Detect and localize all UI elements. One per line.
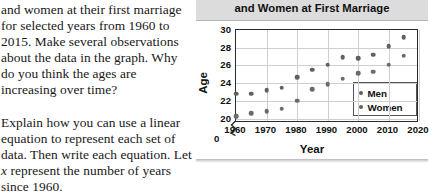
legend-marker-women-icon	[359, 105, 363, 109]
chart-title: and Women at First Marriage	[196, 2, 428, 14]
data-point-women	[371, 69, 376, 74]
data-point-men	[371, 53, 376, 58]
data-point-men	[386, 44, 391, 49]
plot-area: Age Year 202224262830 0 Men Women	[196, 21, 428, 162]
x-axis-label: Year	[196, 143, 428, 155]
data-point-men	[264, 88, 269, 93]
paragraph-2-text-after: represent the number of years since 1960…	[1, 163, 171, 194]
data-point-men	[401, 35, 406, 40]
data-point-men	[325, 62, 330, 67]
y-tick-30: 30	[220, 24, 231, 35]
gridline-vertical	[419, 30, 420, 121]
x-tick-2010: 2010	[377, 124, 398, 135]
data-point-men	[279, 85, 284, 90]
y-tick-24: 24	[220, 77, 231, 88]
gridline-vertical	[328, 30, 329, 121]
textbook-text-column: and women at their first marriage for se…	[0, 0, 196, 193]
chart-legend: Men Women	[353, 82, 417, 116]
problem-paragraph-1: and women at their first marriage for se…	[1, 2, 192, 99]
data-point-women	[249, 111, 254, 116]
gridline-horizontal	[236, 119, 417, 120]
data-point-men	[356, 56, 361, 61]
data-point-women	[310, 87, 315, 92]
legend-label-women: Women	[367, 102, 402, 113]
paragraph-2-text-before: Explain how you can use a linear equatio…	[1, 115, 192, 162]
data-point-women	[325, 82, 330, 87]
x-tick-2000: 2000	[346, 124, 367, 135]
x-tick-1960: 1960	[224, 124, 245, 135]
data-point-men	[310, 68, 315, 73]
data-point-women	[386, 62, 391, 67]
data-point-men	[295, 75, 300, 80]
chart-title-bar: and Women at First Marriage	[196, 0, 428, 21]
x-tick-2020: 2020	[407, 124, 428, 135]
x-tick-1970: 1970	[255, 124, 276, 135]
y-tick-28: 28	[220, 41, 231, 52]
data-point-women	[340, 76, 345, 81]
data-point-men	[234, 91, 239, 96]
data-point-women	[279, 107, 284, 112]
chart-panel: and Women at First Marriage Age Year 202…	[196, 0, 428, 162]
legend-item-women: Women	[359, 100, 416, 114]
gridline-vertical	[267, 30, 268, 121]
data-point-men	[249, 91, 254, 96]
problem-paragraph-2: Explain how you can use a linear equatio…	[1, 115, 192, 195]
gridline-horizontal	[236, 101, 417, 102]
x-tick-1990: 1990	[316, 124, 337, 135]
x-tick-1980: 1980	[285, 124, 306, 135]
legend-item-men: Men	[359, 86, 416, 100]
chart-plot-frame: Men Women	[235, 29, 418, 122]
y-axis-tick-labels: 202224262830	[196, 29, 231, 122]
legend-label-men: Men	[367, 88, 387, 99]
data-point-men	[340, 55, 345, 60]
legend-marker-men-icon	[359, 91, 363, 95]
data-point-women	[356, 71, 361, 76]
data-point-women	[234, 114, 239, 119]
y-tick-26: 26	[220, 59, 231, 70]
data-point-women	[264, 109, 269, 114]
panel-bottom-shadow	[196, 159, 428, 163]
data-point-women	[295, 99, 300, 104]
data-point-women	[401, 53, 406, 58]
x-axis-tick-labels: 1960197019801990200020102020	[196, 124, 428, 140]
y-tick-22: 22	[220, 94, 231, 105]
